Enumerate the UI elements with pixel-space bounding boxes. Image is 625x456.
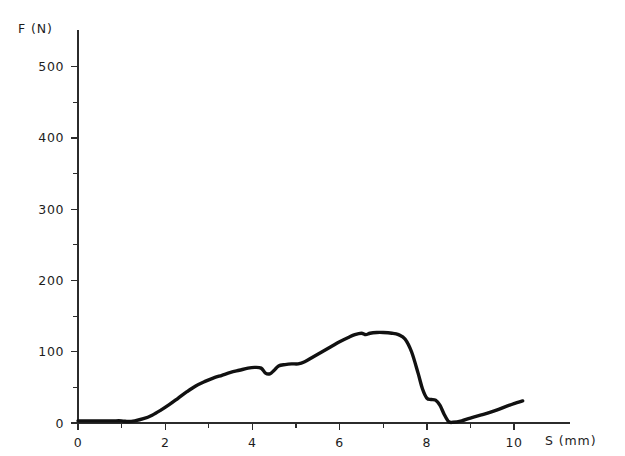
x-axis-tick-labels: 0246810 — [74, 435, 523, 450]
y-tick-label-300: 300 — [38, 202, 64, 217]
x-axis-ticks — [78, 423, 514, 430]
y-tick-label-100: 100 — [38, 344, 64, 359]
x-axis-title: S (mm) — [545, 433, 596, 448]
y-tick-label-500: 500 — [38, 59, 64, 74]
x-tick-label-10: 10 — [505, 435, 522, 450]
y-tick-label-400: 400 — [38, 130, 64, 145]
x-tick-label-6: 6 — [335, 435, 344, 450]
x-tick-label-0: 0 — [74, 435, 83, 450]
y-tick-label-0: 0 — [55, 416, 64, 431]
x-tick-label-4: 4 — [248, 435, 257, 450]
y-axis-ticks — [71, 67, 78, 423]
force-curve — [78, 332, 523, 422]
x-tick-label-8: 8 — [423, 435, 432, 450]
y-tick-label-200: 200 — [38, 273, 64, 288]
y-axis-tick-labels: 0100200300400500 — [38, 59, 64, 430]
force-displacement-chart: 0100200300400500 0246810 F (N) S (mm) — [0, 0, 625, 456]
y-axis-title: F (N) — [18, 21, 53, 36]
x-tick-label-2: 2 — [161, 435, 170, 450]
chart-container: 0100200300400500 0246810 F (N) S (mm) — [0, 0, 625, 456]
